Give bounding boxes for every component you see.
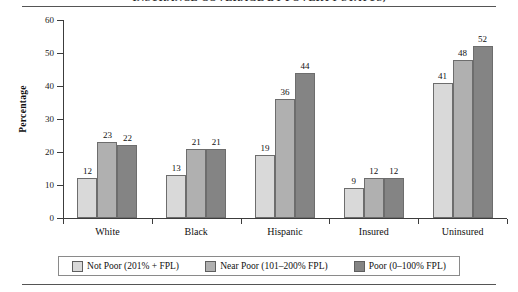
legend-item-2[interactable]: Poor (0–100% FPL)	[354, 261, 446, 272]
bar-uninsured-series-2[interactable]	[473, 46, 493, 218]
bottom-rule-divider	[22, 284, 496, 285]
chart-plot-area: Percentage 0102030405060 122322132121193…	[0, 8, 518, 244]
bar-white-series-2[interactable]	[117, 145, 137, 218]
bar-insured-series-0[interactable]	[344, 188, 364, 218]
top-rule-divider	[22, 6, 496, 7]
bar-white-series-1[interactable]	[97, 142, 117, 218]
bar-black-series-2[interactable]	[206, 149, 226, 218]
bar-value-label: 44	[290, 62, 320, 71]
bar-insured-series-1[interactable]	[364, 178, 384, 218]
bar-value-label: 22	[112, 134, 142, 143]
bar-uninsured-series-0[interactable]	[433, 83, 453, 218]
legend-item-1[interactable]: Near Poor (101–200% FPL)	[205, 261, 327, 272]
bar-series-layer: 12232213212119364491212414852	[0, 8, 518, 244]
chart-legend: Not Poor (201% + FPL)Near Poor (101–200%…	[58, 256, 460, 276]
legend-swatch-icon	[205, 261, 216, 272]
legend-item-label: Near Poor (101–200% FPL)	[220, 261, 327, 271]
legend-item-label: Not Poor (201% + FPL)	[87, 261, 179, 271]
x-axis-category-label-white: White	[62, 226, 152, 237]
legend-swatch-icon	[354, 261, 365, 272]
bar-black-series-0[interactable]	[166, 175, 186, 218]
bar-value-label: 21	[201, 138, 231, 147]
bar-hispanic-series-1[interactable]	[275, 99, 295, 218]
bar-insured-series-2[interactable]	[384, 178, 404, 218]
legend-item-label: Poor (0–100% FPL)	[369, 261, 446, 271]
x-axis-category-label-insured: Insured	[329, 226, 419, 237]
bar-black-series-1[interactable]	[186, 149, 206, 218]
figure-title: INSURANCE COVERAGE BY POVERTY STATUS,	[0, 0, 518, 3]
bar-value-label: 12	[379, 167, 409, 176]
legend-swatch-icon	[72, 261, 83, 272]
bar-white-series-0[interactable]	[77, 178, 97, 218]
x-axis-category-label-uninsured: Uninsured	[418, 226, 508, 237]
bar-hispanic-series-2[interactable]	[295, 73, 315, 218]
bar-uninsured-series-1[interactable]	[453, 60, 473, 218]
x-axis-category-label-hispanic: Hispanic	[240, 226, 330, 237]
bar-value-label: 52	[468, 35, 498, 44]
legend-item-0[interactable]: Not Poor (201% + FPL)	[72, 261, 179, 272]
bar-hispanic-series-0[interactable]	[255, 155, 275, 218]
x-axis-category-label-black: Black	[151, 226, 241, 237]
